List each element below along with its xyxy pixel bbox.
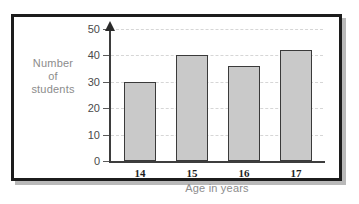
- x-tick-label-17: 17: [276, 167, 316, 179]
- gridline-50: [111, 29, 323, 30]
- bar-17[interactable]: [280, 50, 312, 161]
- x-axis-label: Age in years: [109, 182, 325, 194]
- y-tick-label-40-wrap: 40: [74, 50, 100, 61]
- bar-16[interactable]: [228, 66, 260, 161]
- y-tick-label-50-wrap: 50: [74, 24, 100, 35]
- y-tick-label-30-wrap: 30: [74, 77, 100, 88]
- y-tick-label-40: 40: [78, 50, 100, 61]
- y-tick-label-10-wrap: 10: [74, 130, 100, 141]
- bar-15[interactable]: [176, 55, 208, 161]
- y-tick-label-0: 0: [78, 156, 100, 167]
- y-tick-label-0-wrap: 0: [74, 156, 100, 167]
- x-tick-label-15: 15: [172, 167, 212, 179]
- y-axis-arrow-icon: [105, 21, 115, 31]
- x-axis-line: [109, 161, 325, 163]
- y-axis-line: [109, 29, 111, 163]
- y-tick-label-30: 30: [78, 77, 100, 88]
- y-tick-label-50: 50: [78, 24, 100, 35]
- x-tick-label-14: 14: [120, 167, 160, 179]
- x-tick-label-16: 16: [224, 167, 264, 179]
- bar-14[interactable]: [124, 82, 156, 161]
- figure-frame: Number of students 50 40 30 20 10: [11, 14, 342, 181]
- y-tick-label-20-wrap: 20: [74, 103, 100, 114]
- bar-chart: Number of students 50 40 30 20 10: [14, 17, 339, 178]
- y-tick-label-20: 20: [78, 103, 100, 114]
- y-tick-label-10: 10: [78, 130, 100, 141]
